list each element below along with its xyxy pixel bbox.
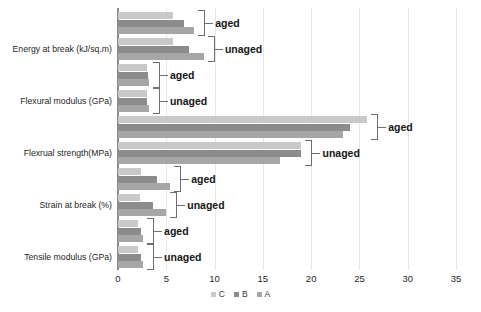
- bar-c: [118, 116, 367, 123]
- bar-a: [118, 131, 343, 138]
- x-tick-label: 30: [402, 274, 413, 284]
- x-axis-tick-labels: 05101520253035: [0, 274, 481, 288]
- bar-b: [118, 124, 350, 131]
- bar-b: [118, 150, 301, 157]
- category-label: Tensile modulus (GPa): [0, 253, 112, 262]
- category-label: Energy at break (kJ/sq.m): [0, 45, 112, 54]
- gridline: [408, 8, 409, 270]
- condition-label-unaged: unaged: [225, 44, 262, 55]
- x-tick-label: 5: [164, 274, 169, 284]
- legend-entry-a[interactable]: A: [257, 290, 271, 299]
- bracket-stem: [204, 23, 213, 24]
- x-tick-label: 10: [209, 274, 220, 284]
- bar-a: [118, 209, 166, 216]
- bracket-stem: [180, 179, 189, 180]
- x-tick-label: 0: [115, 274, 120, 284]
- bar-a: [118, 27, 194, 34]
- bar-b: [118, 176, 157, 183]
- bracket-stem: [377, 127, 386, 128]
- bracket-stem: [159, 101, 168, 102]
- legend-label: C: [219, 290, 225, 299]
- bar-b: [118, 98, 147, 105]
- condition-label-aged: aged: [215, 18, 240, 29]
- bar-c: [118, 246, 138, 253]
- x-tick-label: 20: [306, 274, 317, 284]
- condition-label-unaged: unaged: [170, 96, 207, 107]
- bar-b: [118, 46, 189, 53]
- bar-a: [118, 53, 204, 60]
- x-tick-label: 15: [258, 274, 269, 284]
- bracket-stem: [153, 257, 162, 258]
- condition-label-aged: aged: [164, 226, 189, 237]
- bar-a: [118, 183, 170, 190]
- bar-a: [118, 105, 149, 112]
- category-label: Flexrual strength(MPa): [0, 149, 112, 158]
- legend-swatch-icon: [234, 292, 239, 297]
- gridline: [359, 8, 360, 270]
- bar-a: [118, 79, 149, 86]
- gridline: [456, 8, 457, 270]
- bar-c: [118, 194, 140, 201]
- bar-chart: agedunagedagedunagedagedunagedagedunaged…: [0, 0, 481, 312]
- bar-c: [118, 90, 147, 97]
- bracket-stem: [153, 231, 162, 232]
- legend-swatch-icon: [257, 292, 262, 297]
- category-label: Flexural modulus (GPa): [0, 97, 112, 106]
- condition-label-aged: aged: [191, 174, 216, 185]
- bracket-stem: [214, 49, 223, 50]
- bar-a: [118, 157, 280, 164]
- bar-a: [118, 261, 143, 268]
- category-label: Strain at break (%): [0, 201, 112, 210]
- condition-label-aged: aged: [388, 122, 413, 133]
- bar-b: [118, 228, 141, 235]
- legend-swatch-icon: [211, 292, 216, 297]
- legend-entry-c[interactable]: C: [211, 290, 225, 299]
- bar-c: [118, 64, 147, 71]
- condition-label-aged: aged: [170, 70, 195, 81]
- legend: CBA: [0, 290, 481, 299]
- x-tick-label: 25: [354, 274, 365, 284]
- legend-label: A: [265, 290, 271, 299]
- gridline: [311, 8, 312, 270]
- bar-b: [118, 254, 141, 261]
- bar-c: [118, 142, 301, 149]
- bar-b: [118, 202, 153, 209]
- bar-b: [118, 72, 148, 79]
- x-tick-label: 35: [451, 274, 462, 284]
- condition-label-unaged: unaged: [164, 252, 201, 263]
- bar-c: [118, 12, 173, 19]
- bracket-stem: [176, 205, 185, 206]
- legend-entry-b[interactable]: B: [234, 290, 248, 299]
- condition-label-unaged: unaged: [322, 148, 359, 159]
- condition-label-unaged: unaged: [187, 200, 224, 211]
- legend-label: B: [242, 290, 248, 299]
- bracket-stem: [311, 153, 320, 154]
- bar-c: [118, 38, 173, 45]
- bar-c: [118, 168, 141, 175]
- bracket-stem: [159, 75, 168, 76]
- bar-c: [118, 220, 138, 227]
- bar-b: [118, 20, 184, 27]
- gridline: [263, 8, 264, 270]
- bar-a: [118, 235, 143, 242]
